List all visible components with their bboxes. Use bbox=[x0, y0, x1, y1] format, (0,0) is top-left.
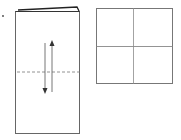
bullet-dot bbox=[2, 15, 4, 17]
fold-flap-edge bbox=[18, 7, 79, 11]
folded-paper-figure bbox=[16, 7, 81, 134]
unfolded-square-figure bbox=[97, 9, 173, 84]
square-outline bbox=[97, 9, 173, 84]
paper-rectangle bbox=[16, 12, 80, 134]
diagram-canvas bbox=[0, 0, 181, 140]
